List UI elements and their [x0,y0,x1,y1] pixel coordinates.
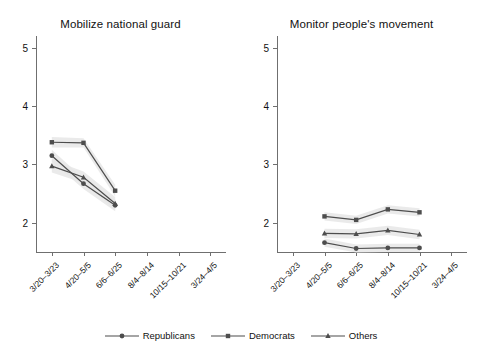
circle-marker [81,181,86,186]
y-axis-tick-label: 4 [10,101,28,112]
square-marker [386,207,390,211]
x-axis-tick [210,252,211,256]
square-marker [81,141,85,145]
x-axis-tick [179,252,180,256]
legend-item[interactable]: Republicans [105,331,195,341]
circle-marker [417,246,422,251]
y-axis-tick-label: 4 [251,101,269,112]
series-layer [277,36,467,252]
y-axis-tick-label: 3 [10,159,28,170]
square-marker [50,140,54,144]
square-marker [417,210,421,214]
chart-legend: RepublicansDemocratsOthers [0,331,482,341]
circle-marker [385,246,390,251]
x-axis-tick [420,252,421,256]
x-axis [36,252,226,253]
x-axis-tick [451,252,452,256]
x-axis-tick [356,252,357,256]
x-axis-tick [115,252,116,256]
chart-figure: Mobilize national guard 23453/20–3/234/2… [0,0,482,347]
plot-area: 23453/20–3/234/20–5/56/6–6/258/4–8/1410/… [277,36,467,252]
plot-area: 23453/20–3/234/20–5/56/6–6/258/4–8/1410/… [36,36,226,252]
legend-item[interactable]: Democrats [211,331,295,341]
square-marker [113,189,117,193]
panel-title: Monitor people's movement [241,18,482,30]
y-axis-tick-label: 2 [251,217,269,228]
x-axis-tick [325,252,326,256]
x-axis-tick [84,252,85,256]
legend-label: Others [349,331,378,341]
square-marker [322,214,326,218]
x-axis-tick [293,252,294,256]
circle-marker [322,240,327,245]
square-marker [354,218,358,222]
square-marker [211,331,245,341]
series-layer [36,36,226,252]
chart-panel-mobilize-national-guard: Mobilize national guard 23453/20–3/234/2… [0,0,241,310]
y-axis-tick-label: 5 [10,42,28,53]
legend-label: Republicans [143,331,195,341]
circle-marker [105,331,139,341]
circle-marker [49,153,54,158]
panel-title: Mobilize national guard [0,18,241,30]
x-axis-tick [388,252,389,256]
y-axis-tick-label: 3 [251,159,269,170]
legend-item[interactable]: Others [311,331,378,341]
y-axis-tick-label: 2 [10,217,28,228]
y-axis-tick-label: 5 [251,42,269,53]
legend-label: Democrats [249,331,295,341]
x-axis-tick [52,252,53,256]
circle-marker [354,246,359,251]
x-axis-tick [147,252,148,256]
chart-panel-monitor-peoples-movement: Monitor people's movement 23453/20–3/234… [241,0,482,310]
triangle-marker [311,331,345,341]
